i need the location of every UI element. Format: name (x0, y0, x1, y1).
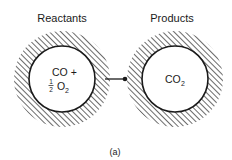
connector-dot-icon (123, 77, 128, 82)
fraction-numerator: 1 (49, 78, 53, 85)
figure-caption: (a) (110, 147, 121, 157)
reactants-subscript: 2 (65, 87, 69, 94)
fraction-denominator: 2 (49, 86, 53, 93)
products-vessel (0, 0, 232, 160)
reactants-line1: CO + (52, 66, 77, 78)
products-species: CO (165, 73, 181, 85)
products-subscript: 2 (181, 80, 185, 87)
diagram-canvas: Reactants Products CO + 1 2 O 2 CO 2 (a) (0, 0, 232, 160)
reactants-species: O (57, 80, 65, 92)
